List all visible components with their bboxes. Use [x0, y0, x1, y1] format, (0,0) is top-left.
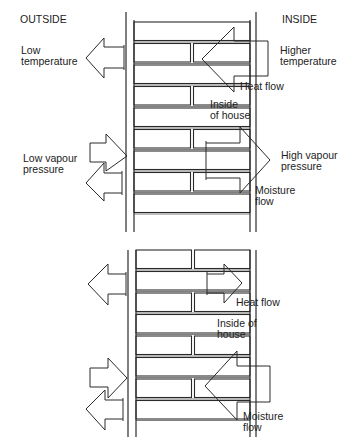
low-temperature-label: Low temperature	[21, 45, 78, 67]
moisture-flow-arrow-top	[206, 126, 270, 193]
low-vapour-pressure-label: Low vapour pressure	[23, 153, 77, 175]
moisture-flow-label-top: Moisture flow	[255, 185, 295, 207]
low-temperature-arrow	[86, 38, 124, 78]
heat-flow-label-top: Heat flow	[240, 81, 284, 92]
wall-diagram-svg	[0, 0, 348, 447]
heat-flow-arrow-outside-bottom	[88, 264, 126, 305]
outside-label: OUTSIDE	[20, 14, 67, 25]
high-vapour-pressure-label: High vapour pressure	[281, 150, 338, 172]
inside-of-house-label-top: Inside of house	[210, 99, 250, 121]
low-vapour-pressure-arrows	[86, 134, 127, 201]
higher-temperature-label: Higher temperature	[280, 45, 337, 67]
inside-label: INSIDE	[282, 14, 317, 25]
moisture-arrows-outside-bottom	[86, 358, 127, 430]
diagram-canvas: OUTSIDE INSIDE Low temperature Higher te…	[0, 0, 348, 447]
heat-flow-label-bottom: Heat flow	[236, 297, 280, 308]
inside-of-house-label-bottom: Inside of house	[217, 318, 257, 340]
moisture-flow-label-bottom: Moisture flow	[243, 411, 283, 433]
